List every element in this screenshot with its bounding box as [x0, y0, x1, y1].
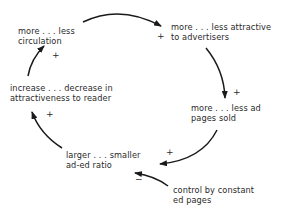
- sign-control-ratio: −: [135, 175, 143, 184]
- node-ratio-line-2: ad-ed ratio: [66, 160, 141, 170]
- sign-ad-pages-ratio: +: [166, 148, 174, 157]
- sign-reader-circulation: +: [52, 51, 60, 60]
- arrow-circulation-to-advertisers: [83, 14, 161, 26]
- sign-circulation-advertisers: +: [157, 32, 165, 41]
- node-circulation: more . . . less circulation: [18, 26, 75, 46]
- node-circulation-line-1: more . . . less: [18, 26, 75, 36]
- node-reader-line-1: increase . . . decrease in: [10, 83, 113, 93]
- node-ratio: larger . . . smaller ad-ed ratio: [66, 150, 141, 170]
- node-ad-pages-line-2: pages sold: [191, 113, 261, 123]
- node-control-line-1: control by constant: [173, 185, 254, 195]
- node-circulation-line-2: circulation: [18, 36, 75, 46]
- node-advertisers-line-2: to advertisers: [171, 32, 271, 42]
- arrow-advertisers-to-ad-pages: [206, 48, 225, 98]
- node-reader: increase . . . decrease in attractivenes…: [10, 83, 113, 103]
- arrow-reader-to-circulation: [28, 46, 44, 76]
- node-ad-pages-line-1: more . . . less ad: [191, 103, 261, 113]
- node-control-line-2: ed pages: [173, 195, 254, 205]
- node-control: control by constant ed pages: [173, 185, 254, 205]
- node-reader-line-2: attractiveness to reader: [10, 93, 113, 103]
- sign-advertisers-ad-pages: +: [233, 88, 241, 97]
- causal-loop-diagram: more . . . less circulation more . . . l…: [0, 0, 286, 214]
- node-ad-pages: more . . . less ad pages sold: [191, 103, 261, 123]
- sign-ratio-reader: +: [46, 110, 54, 119]
- node-advertisers-line-1: more . . . less attractive: [171, 22, 271, 32]
- node-advertisers: more . . . less attractive to advertiser…: [171, 22, 271, 42]
- node-ratio-line-1: larger . . . smaller: [66, 150, 141, 160]
